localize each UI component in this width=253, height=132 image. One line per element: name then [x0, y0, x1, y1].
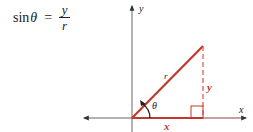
- adjacent-label: x: [163, 120, 170, 132]
- hypotenuse: [132, 46, 203, 118]
- angle-label: θ: [152, 100, 157, 111]
- opposite-label: y: [205, 81, 212, 93]
- x-axis-label: x: [238, 104, 244, 115]
- right-angle-marker: [191, 106, 203, 118]
- right-triangle-diagram: y x r y x θ: [0, 0, 253, 132]
- y-axis-label: y: [138, 3, 144, 14]
- hypotenuse-label: r: [164, 71, 168, 81]
